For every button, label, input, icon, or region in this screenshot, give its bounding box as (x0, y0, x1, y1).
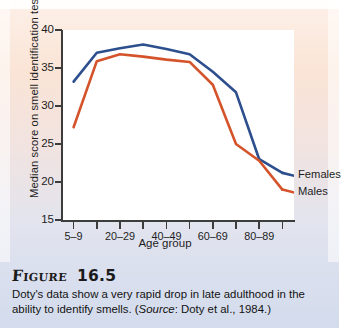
legend-leader-females (282, 173, 294, 176)
figure-number: 16.5 (77, 267, 116, 285)
y-tick-label: 25 (28, 137, 54, 149)
figure-label: Figure (11, 266, 67, 285)
x-tick (282, 222, 284, 229)
x-tick (235, 222, 237, 229)
x-tick (258, 222, 260, 229)
x-tick (166, 222, 168, 229)
series-lines (62, 30, 294, 221)
y-tick (55, 181, 62, 183)
x-tick (119, 222, 121, 229)
x-tick-label: 20–29 (98, 230, 142, 242)
x-tick-label: 40–49 (144, 230, 188, 242)
legend-label-females: Females (298, 168, 341, 180)
caption-text-part2: : Doty et al., 1984.) (175, 303, 271, 315)
legend-label-males: Males (298, 185, 328, 197)
y-tick (55, 67, 62, 69)
y-tick-label: 15 (28, 213, 54, 225)
x-tick (142, 222, 144, 229)
x-tick (212, 222, 214, 229)
series-line-males (74, 54, 283, 189)
caption-source-word: Source (139, 303, 175, 315)
caption-text: Doty's data show a very rapid drop in la… (12, 287, 330, 317)
panel-frame-left (0, 0, 10, 262)
x-tick-label: 5–9 (52, 230, 96, 242)
y-tick-label: 30 (28, 99, 54, 111)
x-tick (73, 222, 75, 229)
y-tick-label: 35 (28, 61, 54, 73)
y-tick-label: 20 (28, 175, 54, 187)
y-tick (55, 105, 62, 107)
x-tick-label: 60–69 (191, 230, 235, 242)
x-tick-label: 80–89 (237, 230, 281, 242)
panel-frame-top (0, 0, 339, 9)
y-tick (55, 143, 62, 145)
y-tick-label: 40 (28, 23, 54, 35)
panel-frame-right (328, 0, 339, 262)
y-tick (55, 29, 62, 31)
line-chart: Median score on smell identification tes… (10, 9, 328, 262)
x-tick (96, 222, 98, 229)
figure-heading: Figure 16.5 (12, 266, 330, 285)
y-tick (55, 219, 62, 221)
x-tick (189, 222, 191, 229)
figure-caption: Figure 16.5 Doty's data show a very rapi… (12, 266, 330, 317)
legend-leader-males (282, 190, 294, 193)
